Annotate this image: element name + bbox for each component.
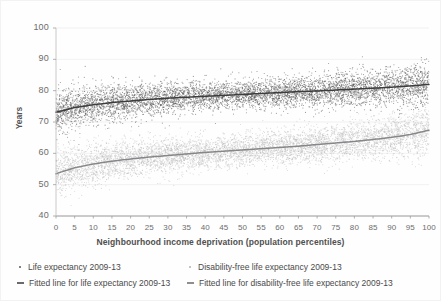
legend-dot-marker [189, 266, 191, 268]
y-tick-label: 60 [23, 147, 49, 157]
legend-item: Life expectancy 2009-13 [17, 262, 187, 273]
legend-label: Life expectancy 2009-13 [28, 262, 121, 273]
chart-canvas [1, 1, 441, 301]
legend-dot-marker [19, 266, 21, 268]
chart-legend: Life expectancy 2009-13Disability-free l… [17, 259, 427, 291]
scatter-disability-free-life-expectancy [55, 105, 429, 206]
legend-item: Fitted line for disability-free life exp… [187, 278, 427, 289]
legend-item: Disability-free life expectancy 2009-13 [187, 262, 427, 273]
legend-label: Disability-free life expectancy 2009-13 [198, 262, 342, 273]
y-tick-label: 100 [23, 22, 49, 32]
y-axis-title: Years [14, 88, 24, 148]
legend-line-marker [17, 282, 24, 284]
x-axis-title: Neighbourhood income deprivation (popula… [1, 237, 440, 247]
legend-line-marker [187, 282, 194, 284]
legend-label: Fitted line for life expectancy 2009-13 [29, 278, 170, 289]
chart-figure: 100908070605040 051015202530354045505560… [0, 0, 441, 301]
legend-item: Fitted line for life expectancy 2009-13 [17, 278, 187, 289]
x-tick-label: 100 [418, 223, 440, 232]
y-tick-label: 40 [23, 210, 49, 220]
y-tick-label: 90 [23, 53, 49, 63]
legend-label: Fitted line for disability-free life exp… [199, 278, 393, 289]
gridlines [56, 28, 429, 216]
y-tick-label: 70 [23, 116, 49, 126]
y-tick-label: 80 [23, 85, 49, 95]
y-tick-label: 50 [23, 179, 49, 189]
